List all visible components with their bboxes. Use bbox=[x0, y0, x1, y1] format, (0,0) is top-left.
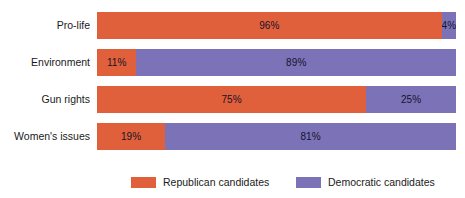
bar-segment-republican[interactable]: 75% bbox=[97, 86, 366, 113]
bar-value-label: 96% bbox=[259, 20, 279, 31]
bar-track-environment: 11% 89% bbox=[97, 49, 456, 76]
category-label-environment: Environment bbox=[0, 49, 90, 76]
bar-segment-democratic[interactable]: 89% bbox=[136, 49, 456, 76]
chart-plot-area: Pro-life 96% 4% Environment 11% 89% bbox=[0, 12, 465, 160]
bar-value-label: 75% bbox=[221, 94, 241, 105]
bar-track-pro-life: 96% 4% bbox=[97, 12, 456, 39]
table-row: Gun rights 75% 25% bbox=[0, 86, 465, 113]
bar-track-womens-issues: 19% 81% bbox=[97, 123, 456, 150]
bar-value-label: 25% bbox=[401, 94, 421, 105]
bar-segment-republican[interactable]: 19% bbox=[97, 123, 165, 150]
category-label-womens-issues: Women's issues bbox=[0, 123, 90, 150]
bar-segment-democratic[interactable]: 4% bbox=[442, 12, 456, 39]
bar-value-label: 4% bbox=[442, 20, 456, 31]
table-row: Environment 11% 89% bbox=[0, 49, 465, 76]
legend-swatch-icon bbox=[131, 177, 156, 188]
table-row: Women's issues 19% 81% bbox=[0, 123, 465, 150]
chart-legend: Republican candidates Democratic candida… bbox=[0, 173, 465, 191]
legend-swatch-icon bbox=[296, 177, 321, 188]
legend-item-republican[interactable]: Republican candidates bbox=[131, 173, 269, 191]
category-label-gun-rights: Gun rights bbox=[0, 86, 90, 113]
bar-segment-democratic[interactable]: 81% bbox=[165, 123, 456, 150]
legend-label: Republican candidates bbox=[163, 176, 269, 188]
bar-value-label: 11% bbox=[107, 57, 127, 68]
legend-label: Democratic candidates bbox=[328, 176, 435, 188]
category-label-pro-life: Pro-life bbox=[0, 12, 90, 39]
bar-segment-republican[interactable]: 11% bbox=[97, 49, 136, 76]
bar-segment-republican[interactable]: 96% bbox=[97, 12, 442, 39]
bar-segment-democratic[interactable]: 25% bbox=[366, 86, 456, 113]
bar-track-gun-rights: 75% 25% bbox=[97, 86, 456, 113]
bar-value-label: 81% bbox=[300, 131, 320, 142]
bar-value-label: 19% bbox=[121, 131, 141, 142]
stacked-bar-chart: Pro-life 96% 4% Environment 11% 89% bbox=[0, 0, 465, 198]
bar-value-label: 89% bbox=[286, 57, 306, 68]
table-row: Pro-life 96% 4% bbox=[0, 12, 465, 39]
legend-item-democratic[interactable]: Democratic candidates bbox=[296, 173, 435, 191]
